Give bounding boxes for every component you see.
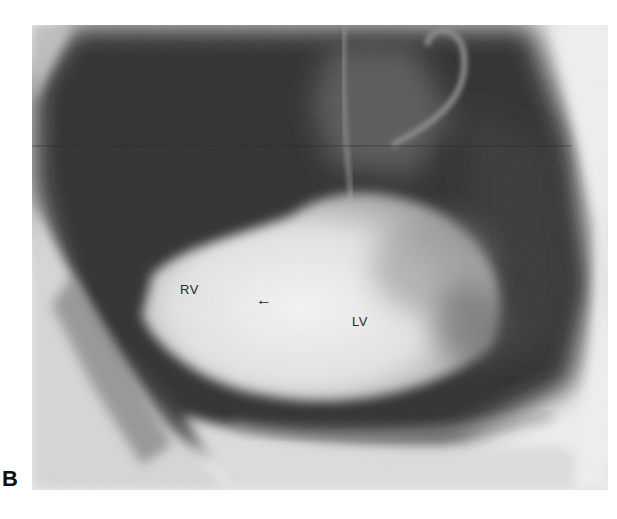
panel-letter: B xyxy=(2,466,18,492)
rv-label: RV xyxy=(180,282,199,297)
radiograph-image: RV ← LV xyxy=(32,25,608,490)
radiograph-graphic xyxy=(32,25,608,490)
lv-label: LV xyxy=(352,314,368,329)
arrow-icon: ← xyxy=(256,291,273,309)
